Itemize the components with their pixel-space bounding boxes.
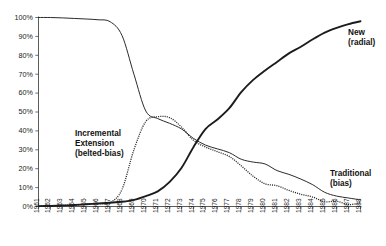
y-tick-label: 100% [15, 13, 34, 22]
x-tick-label: 1987 [343, 198, 350, 213]
chart-container: 0%10%20%30%40%50%60%70%80%90%100% 196119… [0, 0, 386, 246]
y-axis: 0%10%20%30%40%50%60%70%80%90%100% [15, 13, 39, 211]
x-tick-label: 1986 [331, 198, 338, 213]
x-tick-label: 1981 [271, 198, 278, 213]
y-tick-label: 70% [19, 70, 34, 79]
x-tick-label: 1974 [188, 198, 195, 213]
x-tick-label: 1973 [176, 198, 183, 213]
y-tick-label: 30% [19, 145, 34, 154]
y-tick-label: 50% [19, 107, 34, 116]
x-tick-label: 1977 [223, 198, 230, 213]
x-tick-label: 1968 [116, 198, 123, 213]
x-tick-label: 1978 [235, 198, 242, 213]
x-tick-label: 1966 [92, 198, 99, 213]
y-tick-label: 20% [19, 164, 34, 173]
annotation-traditional-bias: Traditional(bias) [330, 169, 371, 188]
x-tick-label: 1983 [295, 198, 302, 213]
x-tick-label: 1979 [247, 198, 254, 213]
y-tick-label: 60% [19, 88, 34, 97]
curve-new-radial [39, 21, 361, 206]
curve-traditional-bias [39, 17, 361, 199]
y-tick-label: 10% [19, 183, 34, 192]
line-chart-plot: 0%10%20%30%40%50%60%70%80%90%100% 196119… [0, 0, 386, 246]
x-tick-label: 1982 [283, 198, 290, 213]
y-tick-label: 80% [19, 51, 34, 60]
x-tick-label: 1985 [319, 198, 326, 213]
x-tick-label: 1970 [140, 198, 147, 213]
x-tick-label: 1975 [199, 198, 206, 213]
x-tick-label: 1980 [259, 198, 266, 213]
x-tick-label: 1971 [152, 198, 159, 213]
x-axis: 1961196219631964196519661967196819691970… [33, 198, 362, 213]
y-tick-label: 40% [19, 126, 34, 135]
x-tick-label: 1972 [164, 198, 171, 213]
x-tick-label: 1984 [307, 198, 314, 213]
annotation-incremental-extension: IncrementalExtension(belted-bias) [75, 129, 124, 158]
x-tick-label: 1967 [104, 198, 111, 213]
series-annotations: New(radial)Traditional(bias)IncrementalE… [75, 28, 376, 188]
annotation-new-radial: New(radial) [348, 28, 376, 47]
x-tick-label: 1976 [211, 198, 218, 213]
y-tick-label: 90% [19, 32, 34, 41]
series-curves [39, 17, 361, 206]
